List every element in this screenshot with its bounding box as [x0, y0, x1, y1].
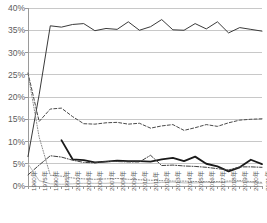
y-axis-tick-label: 5% [13, 160, 25, 169]
y-axis-tick-label: 30% [8, 48, 25, 57]
y-axis-tick-label: 15% [8, 115, 25, 124]
chart-plot-area [0, 0, 267, 223]
line-chart: 0%5%10%15%20%25%30%35%40% 1960年1975年1990… [0, 0, 267, 223]
series-line-series-1-solid-thin [28, 20, 262, 157]
y-axis-tick-label: 10% [8, 137, 25, 146]
series-line-series-3-solid-bold [61, 140, 262, 171]
y-axis-tick-label: 20% [8, 93, 25, 102]
series-line-series-2-dashed [28, 73, 262, 130]
series-line-series-5-dotted [28, 74, 262, 183]
y-axis-tick-label: 0% [13, 182, 25, 191]
y-axis-tick-label: 35% [8, 26, 25, 35]
series-line-series-4-dash-dot [28, 155, 262, 175]
y-axis-labels: 0%5%10%15%20%25%30%35%40% [0, 0, 25, 223]
y-axis-tick-label: 25% [8, 71, 25, 80]
y-axis-tick-label: 40% [8, 4, 25, 13]
